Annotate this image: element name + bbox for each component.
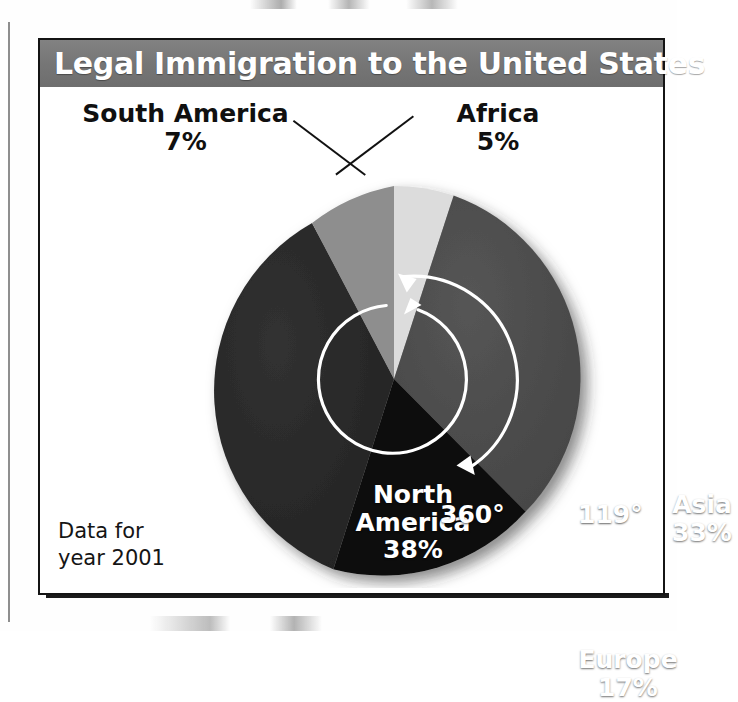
chart-footnote-line2: year 2001: [58, 545, 165, 572]
slice-label-north-america-percent: 38%: [383, 535, 443, 564]
callout-africa: Africa 5%: [418, 100, 578, 156]
chart-footnote-line1: Data for: [58, 518, 165, 545]
callout-africa-name: Africa: [418, 100, 578, 128]
slice-label-europe-percent: 17%: [598, 673, 658, 702]
slice-label-asia-line1: Asia: [672, 490, 732, 519]
page-margin-rule: [8, 22, 10, 622]
scan-bleed-bottom: [150, 616, 350, 631]
pie-chart: North America 38% Asia 33% Europe 17% 36…: [195, 178, 605, 588]
chart-title-bar: Legal Immigration to the United States: [40, 40, 663, 87]
chart-footnote: Data for year 2001: [58, 518, 165, 573]
callout-south-america-percent: 7%: [68, 128, 303, 156]
scan-bleed-top: [250, 0, 510, 9]
slice-label-asia: Asia 33%: [647, 491, 738, 546]
angle-label-119: 119°: [578, 500, 643, 529]
slice-label-asia-percent: 33%: [672, 518, 732, 547]
slice-label-europe: Europe 17%: [553, 646, 703, 701]
chart-title: Legal Immigration to the United States: [54, 46, 705, 81]
angle-label-360: 360°: [440, 500, 505, 529]
callout-south-america: South America 7%: [68, 100, 303, 156]
callout-africa-percent: 5%: [418, 128, 578, 156]
slice-label-europe-line1: Europe: [578, 645, 677, 674]
callout-south-america-name: South America: [68, 100, 303, 128]
